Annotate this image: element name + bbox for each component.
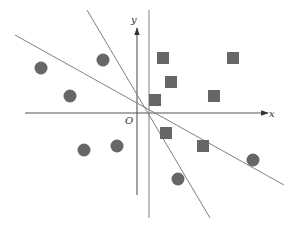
circle-marker [35,62,48,75]
circle-marker [247,154,260,167]
square-marker [149,94,161,106]
circle-marker [172,173,185,186]
square-marker [227,52,239,64]
square-marker [208,90,220,102]
square-marker [157,52,169,64]
circle-class-points [35,54,260,186]
circle-marker [111,140,124,153]
origin-label: O [125,115,133,126]
separating-hyperplanes-diagram: x y O [0,0,295,227]
y-axis-label: y [130,14,137,25]
separating-lines [15,10,284,218]
x-axis-label: x [269,108,275,119]
square-marker [197,140,209,152]
circle-marker [64,90,77,103]
circle-marker [78,144,91,157]
square-marker [165,76,177,88]
square-class-points [149,52,239,152]
circle-marker [97,54,110,67]
square-marker [160,127,172,139]
